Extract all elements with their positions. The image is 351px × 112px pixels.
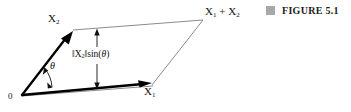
figure-container: 0 X2 X1 X1 + X2 θ ‖X2‖sin(θ) FIGURE 5.1	[0, 0, 351, 112]
figure-caption: FIGURE 5.1	[266, 5, 339, 16]
vector-x2-label: X2	[48, 13, 59, 26]
vector-x1-label-base: X	[144, 85, 152, 97]
angle-theta-text: θ	[50, 60, 55, 71]
vector-x2-label-base: X	[48, 12, 56, 24]
sin-function-close-paren: )	[106, 49, 109, 59]
vector-x1-shaft	[22, 84, 143, 95]
height-arrow-upper-head	[94, 29, 99, 36]
vector-x1-label: X1	[144, 86, 155, 99]
parallelogram-right-edge	[152, 20, 203, 85]
vector-x2-shaft	[22, 38, 66, 95]
vector-x2-label-sub: 2	[56, 18, 60, 26]
parallelogram-bottom-edge	[22, 86, 153, 96]
parallelogram-top-edge	[73, 20, 203, 30]
origin-label: 0	[8, 92, 13, 101]
vector-sum-second-base: X	[228, 5, 236, 17]
vector-sum-label: X1 + X2	[205, 6, 240, 19]
figure-marker-icon	[266, 6, 275, 15]
angle-theta-label: θ	[50, 61, 55, 71]
height-vector-base: X	[75, 49, 82, 59]
vector-x1-label-sub: 1	[152, 91, 156, 99]
vector-sum-second-sub: 2	[236, 11, 240, 19]
vector-sum-operator: +	[219, 5, 225, 17]
figure-caption-text: FIGURE 5.1	[282, 5, 339, 16]
origin-text: 0	[8, 91, 13, 101]
vector-sum-first-base: X	[205, 5, 213, 17]
height-expression-label: ‖X2‖sin(θ)	[71, 49, 110, 61]
sin-function-name: sin(	[87, 49, 101, 59]
vector-sum-first-sub: 1	[213, 11, 217, 19]
